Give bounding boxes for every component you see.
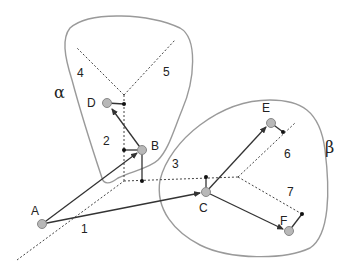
edge-a-b xyxy=(42,153,137,224)
node-label-a: A xyxy=(31,204,39,218)
region-label-alpha: α xyxy=(54,83,65,102)
node-e xyxy=(267,119,276,128)
node-a xyxy=(38,220,47,229)
diagram-canvas: A B C D E F 1 2 3 4 5 6 7 α β xyxy=(0,0,347,272)
cell-number-5: 5 xyxy=(163,65,170,79)
cell-number-6: 6 xyxy=(284,147,291,161)
node-d xyxy=(103,99,112,108)
node-label-c: C xyxy=(199,201,208,215)
cell-number-2: 2 xyxy=(103,134,110,148)
node-label-d: D xyxy=(87,96,96,110)
edge-c-f xyxy=(206,192,283,229)
node-label-e: E xyxy=(262,101,270,115)
cell-number-4: 4 xyxy=(77,66,84,80)
edge-b-d xyxy=(112,109,142,150)
node-label-b: B xyxy=(151,139,159,153)
node-b xyxy=(138,146,147,155)
edge-a-c xyxy=(42,193,200,224)
node-c xyxy=(202,188,211,197)
cell-number-7: 7 xyxy=(287,185,294,199)
cell-number-1: 1 xyxy=(81,222,88,236)
region-label-beta: β xyxy=(325,138,334,157)
dashed-boundaries xyxy=(17,40,302,260)
node-label-f: F xyxy=(280,214,287,228)
cell-number-3: 3 xyxy=(172,157,179,171)
region-beta-outline xyxy=(159,100,328,257)
